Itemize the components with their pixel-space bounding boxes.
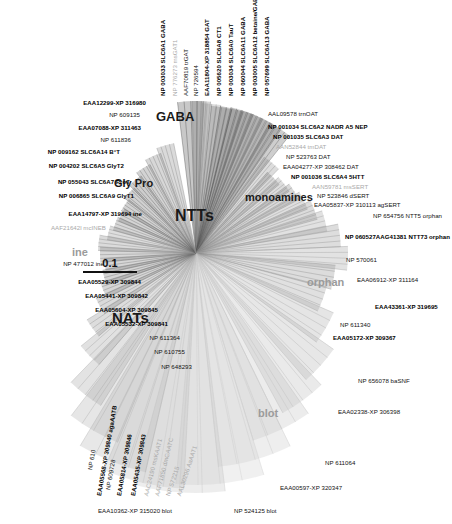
taxon-label: NP 611340 (340, 322, 370, 328)
taxon-label: NP 005620 SLC6A8 CT1 (216, 26, 222, 96)
taxon-label: NP 004202 SLC6A5 GlyT2 (49, 163, 124, 169)
taxon-label: EAA10362-XP 315020 blot (98, 508, 172, 514)
taxon-label: AAF21642l mcINEB (51, 225, 106, 231)
taxon-label: NP 003034 SLC6A0 TauT (228, 24, 234, 96)
cluster-label-monoamines: monoamines (245, 192, 313, 203)
taxon-label: NP 776273 msGAT1 (172, 40, 178, 96)
cluster-label-ine: ine (72, 247, 88, 258)
taxon-label: EAA07088-XP 311463 (79, 125, 141, 131)
taxon-label: NP 610755 (154, 349, 185, 355)
taxon-label: EAA05604-XP 309845 (95, 307, 158, 313)
taxon-label: NP 611064 (325, 460, 355, 466)
cluster-label-blot: blot (258, 408, 278, 419)
taxon-label: EAA05172-XP 309367 (333, 335, 396, 341)
taxon-label: NP 006865 SLC6A9 GlyT1 (59, 193, 134, 199)
taxon-label: NP 523763 DAT (286, 154, 330, 160)
cluster-label-gaba: GABA (156, 110, 194, 123)
taxon-label: NP 057699 SLC6A13 GABA (264, 16, 270, 96)
taxon-label: AAN59781 msSERT (312, 184, 368, 190)
taxon-label: NP 611836 (101, 137, 131, 143)
taxon-label: NP 001036 SLC6A4 5HTT (291, 174, 364, 180)
taxon-label: AAF70819 trGAT (183, 49, 189, 96)
taxon-label: NP 609135 (109, 112, 140, 118)
taxon-label: EAA14797-XP 319694 ine (69, 211, 142, 217)
taxon-label: NP 477012 ine (63, 261, 104, 267)
taxon-label: NP 654756 NTT5 orphan (373, 213, 442, 219)
taxon-label: EAA02338-XP 306398 (338, 409, 400, 415)
taxon-label: NP 726594 (193, 65, 199, 96)
taxon-label: EAA05837-XP 310113 agSERT (314, 202, 401, 208)
taxon-label: EAA04277-XP 308462 DAT (283, 164, 359, 170)
taxon-label: AAL09578 trnOAT (268, 111, 318, 117)
taxon-label: NP 611364 (150, 335, 180, 341)
cluster-label-ntts: NTTs (175, 208, 214, 224)
taxon-label: NP 001035 SLC6A3 DAT (273, 134, 343, 140)
taxon-label: NP 055043 SLC6A7 ProT (58, 179, 130, 185)
phylogenetic-tree-figure: 0.1 NTTsGABAGly PromonoaminesineNATsorph… (0, 0, 452, 524)
taxon-label: EAA05529-XP 309844 (78, 279, 141, 285)
taxon-label: AAN52844 tmDAT (276, 144, 326, 150)
taxon-label: NP 648293 (161, 364, 192, 370)
taxon-label: EAA00597-XP 320347 (280, 485, 342, 491)
taxon-label: EAA06912-XP 311164 (357, 277, 418, 283)
taxon-label: NP 523846 dSERT (317, 193, 369, 199)
taxon-label: NP 656078 baSNF (358, 378, 410, 384)
taxon-label: NP 003005 SLC6A12 betaine/GABA (252, 0, 258, 96)
taxon-label: EAA12299-XP 316980 (83, 100, 146, 106)
taxon-label: NP 060044 SLC6A11 GABA (240, 17, 246, 96)
scale-bar-rule (83, 271, 137, 273)
taxon-label: EAA05441-XP 309842 (85, 293, 148, 299)
taxon-label: NP 524125 blot (234, 508, 277, 514)
taxon-label: NP 009162 SLC6A14 B°T (48, 149, 120, 155)
taxon-label: NP 060527AAG41381 NTT73 orphan (345, 234, 450, 240)
taxon-label: EAA43361-XP 319695 (375, 304, 438, 310)
taxon-label: EAA11804-XP 318854 GAT (204, 19, 210, 96)
taxon-label: NP 003033 SLC6A1 GABA (160, 20, 166, 96)
cluster-label-orphan: orphan (307, 277, 344, 288)
taxon-label: EAA05532-XP 309841 (105, 321, 168, 327)
taxon-label: NP 570061 (346, 257, 377, 263)
taxon-label: NP 001034 SLC6A2 NADR A5 NEP (268, 124, 368, 130)
